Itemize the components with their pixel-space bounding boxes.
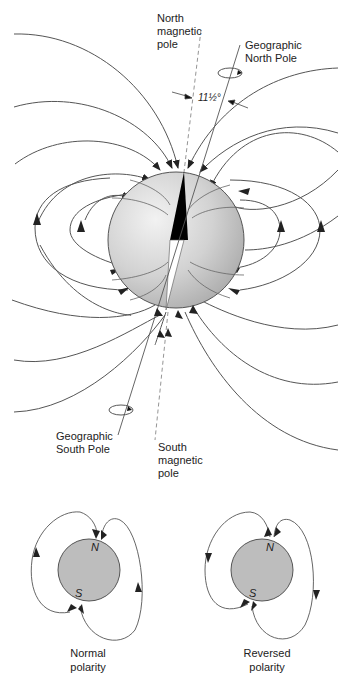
inset-normal-south-letter: S [75,587,82,600]
caption-reversed-polarity: Reversed polarity [232,646,302,674]
magnetic-axis-south [155,312,168,440]
inset-normal-polarity [31,512,142,640]
inset-reversed-south-letter: S [249,587,256,600]
label-north-magnetic-pole: North magnetic pole [157,12,202,51]
label-geographic-south-pole: Geographic South Pole [56,430,113,456]
inset-reversed-polarity [205,512,320,639]
rotation-indicator-south [109,405,133,415]
inset-reversed-north-letter: N [266,541,274,554]
label-angle: 11½° [198,92,221,103]
caption-normal-polarity: Normal polarity [58,646,118,674]
inset-normal-north-letter: N [91,541,99,554]
label-geographic-north-pole: Geographic North Pole [245,39,302,65]
label-south-magnetic-pole: South magnetic pole [158,441,203,480]
magnetic-field-diagram [0,0,352,679]
